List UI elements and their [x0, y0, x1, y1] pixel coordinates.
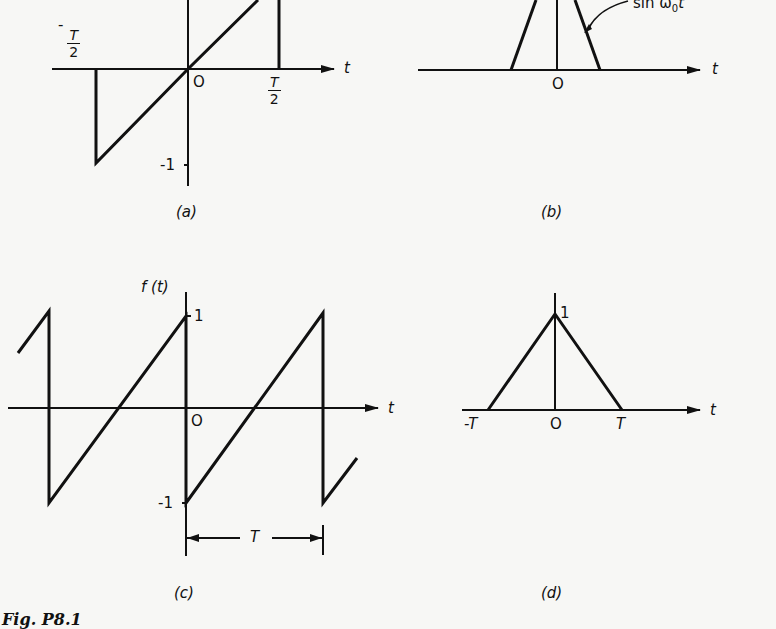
panel-a-t-axis-label: t	[344, 61, 350, 76]
figure-caption: Fig. P8.1	[2, 610, 82, 629]
panel-c-neg-one-label: -1	[158, 496, 173, 511]
panel-a-plot	[52, 0, 334, 186]
panel-a-origin-label: O	[193, 75, 205, 90]
panel-b-left-edge	[511, 0, 536, 70]
panel-a-neg-half-tick-label: -T2	[58, 28, 80, 59]
panel-a-caption: (a)	[176, 205, 197, 220]
panel-c-caption: (c)	[174, 586, 194, 601]
panel-a-neg-one-label: -1	[160, 158, 175, 173]
panel-d-neg-T-label: -T	[464, 417, 477, 432]
panel-c-t-axis-label: t	[388, 401, 394, 416]
panel-d-t-axis-label: t	[710, 403, 716, 418]
panel-a-ramp	[96, 0, 258, 163]
panel-b-leader-line	[588, 1, 628, 30]
panel-a-pos-half-tick-label: T2	[268, 75, 281, 106]
panel-d-pos-T-label: T	[616, 417, 625, 432]
panel-b-t-axis-label: t	[712, 62, 718, 77]
panel-c-one-label: 1	[194, 309, 204, 324]
panel-b-right-edge	[575, 0, 600, 70]
panel-b-sin-annotation: sin ω0t	[633, 0, 684, 14]
panel-d-origin-label: O	[550, 417, 562, 432]
panel-c-period-left-arrow-icon	[187, 534, 199, 542]
panel-d-caption: (d)	[541, 586, 562, 601]
panel-b-caption: (b)	[541, 205, 562, 220]
panel-b-origin-label: O	[552, 77, 564, 92]
panel-c-period-label: T	[250, 530, 259, 545]
panel-d-plot	[462, 293, 700, 410]
panel-c-ylabel: f (t)	[141, 280, 169, 295]
panel-c-period-right-arrow-icon	[310, 534, 322, 542]
panel-c-origin-label: O	[191, 414, 203, 429]
panel-d-peak-label: 1	[560, 306, 570, 321]
